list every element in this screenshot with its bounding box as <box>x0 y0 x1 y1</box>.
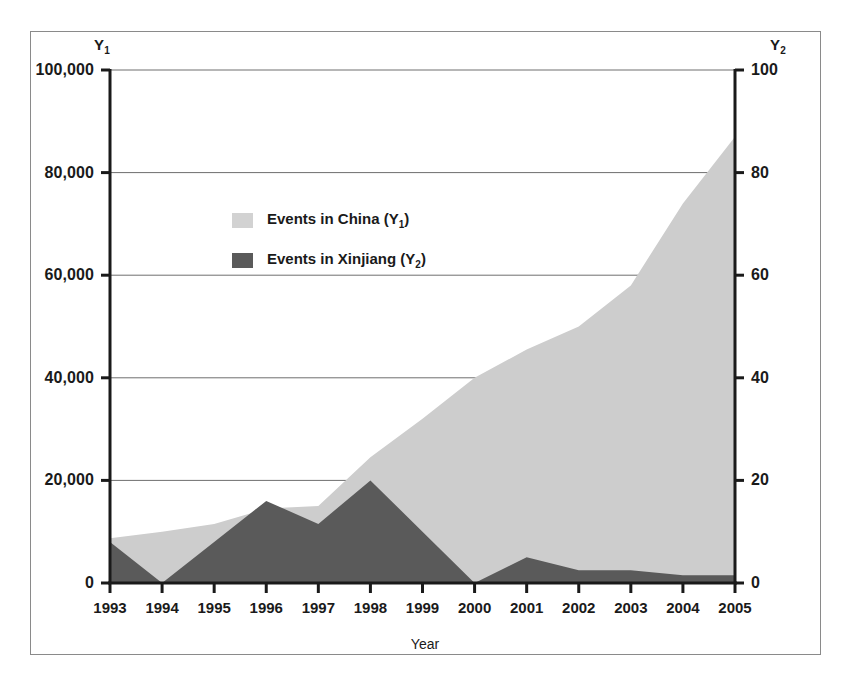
legend-item-china: Events in China (Y1) <box>232 210 409 230</box>
x-tick-label: 1999 <box>406 599 439 616</box>
chart-figure: Y1 Y2 020,00040,00060,00080,000100,000 0… <box>0 0 850 691</box>
x-tick-label: 2004 <box>666 599 699 616</box>
x-axis-label: Year <box>0 636 850 652</box>
y1-tick-label: 20,000 <box>44 471 94 489</box>
y2-tick-label: 100 <box>751 61 778 79</box>
x-tick-label: 1996 <box>250 599 283 616</box>
y2-tick-label: 60 <box>751 266 769 284</box>
x-tick-label: 2003 <box>614 599 647 616</box>
y1-tick-label: 60,000 <box>44 266 94 284</box>
area-series-china <box>110 137 735 583</box>
legend-swatch-china <box>232 213 253 228</box>
y2-tick-label: 0 <box>751 574 760 592</box>
y1-tick-label: 80,000 <box>44 164 94 182</box>
x-tick-label: 2005 <box>718 599 751 616</box>
y2-tick-label: 20 <box>751 471 769 489</box>
y2-tick-label: 40 <box>751 369 769 387</box>
x-tick-label: 1993 <box>93 599 126 616</box>
legend-label-china: Events in China (Y1) <box>267 210 409 230</box>
x-tick-label: 1994 <box>145 599 178 616</box>
y1-tick-label: 100,000 <box>35 61 94 79</box>
y2-axis-title: Y2 <box>770 36 786 56</box>
x-tick-label: 1997 <box>302 599 335 616</box>
y1-tick-label: 0 <box>85 574 94 592</box>
x-tick-label: 2000 <box>458 599 491 616</box>
area-chart-svg <box>0 0 850 691</box>
x-tick-label: 2001 <box>510 599 543 616</box>
legend-item-xinjiang: Events in Xinjiang (Y2) <box>232 250 426 270</box>
y1-tick-label: 40,000 <box>44 369 94 387</box>
data-areas <box>110 137 735 583</box>
x-tick-label: 1998 <box>354 599 387 616</box>
x-tick-label: 1995 <box>197 599 230 616</box>
y1-axis-title: Y1 <box>94 36 110 56</box>
legend-swatch-xinjiang <box>232 253 253 268</box>
legend-label-xinjiang: Events in Xinjiang (Y2) <box>267 250 426 270</box>
x-tick-label: 2002 <box>562 599 595 616</box>
y2-tick-label: 80 <box>751 164 769 182</box>
